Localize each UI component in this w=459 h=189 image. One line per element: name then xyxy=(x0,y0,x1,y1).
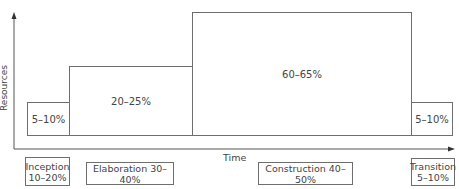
phase-name: Transition xyxy=(410,161,456,172)
bar-label: 5–10% xyxy=(32,114,66,125)
x-axis-label: Time xyxy=(223,152,246,163)
phase-box-construction: Construction 40–50% xyxy=(258,162,353,185)
phase-range: 5–10% xyxy=(417,172,449,183)
bar-elaboration: 20–25% xyxy=(69,66,193,136)
phase-box-elaboration: Elaboration 30–40% xyxy=(86,162,174,185)
bar-construction: 60–65% xyxy=(192,12,412,136)
bar-label: 5–10% xyxy=(415,114,449,125)
phase-label: Elaboration 30–40% xyxy=(87,163,173,185)
x-axis-arrow-icon xyxy=(448,147,455,152)
phase-label: Construction 40–50% xyxy=(259,163,352,185)
phase-range: 10–20% xyxy=(29,172,67,183)
phase-box-inception: Inception 10–20% xyxy=(25,157,70,186)
phase-box-transition: Transition 5–10% xyxy=(411,158,455,186)
bar-transition: 5–10% xyxy=(411,102,453,136)
bar-inception: 5–10% xyxy=(27,102,70,136)
y-axis-label: Resources xyxy=(0,71,9,111)
y-axis-arrow-icon xyxy=(12,12,17,19)
phase-name: Inception xyxy=(25,161,69,172)
bar-label: 20–25% xyxy=(111,96,151,107)
bar-label: 60–65% xyxy=(282,69,322,80)
